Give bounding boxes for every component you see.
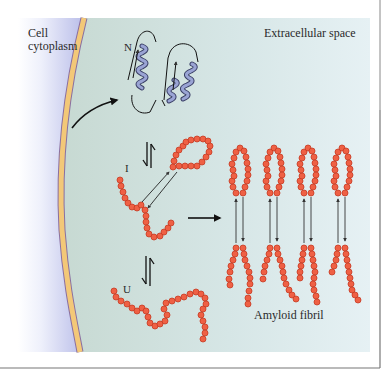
diagram-canvas [0,0,392,390]
figure-frame: Cell cytoplasm Extracellular space N I U… [0,0,392,390]
intermediate-state-label: I [125,162,129,175]
amyloid-fibril-label: Amyloid fibril [254,309,324,322]
extracellular-label: Extracellular space [264,27,356,40]
native-state-label: N [124,41,132,54]
cytoplasm-label: Cell cytoplasm [28,27,88,53]
unfolded-state-label: U [123,283,131,296]
